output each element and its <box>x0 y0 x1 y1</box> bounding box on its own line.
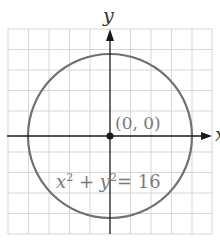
eq-value: 16 <box>138 171 161 192</box>
y-axis-arrow-icon <box>106 29 114 41</box>
x-axis-arrow-icon <box>201 132 212 140</box>
origin-label: (0, 0) <box>115 113 161 133</box>
x-axis-label: x <box>215 123 220 145</box>
eq-exp1: 2 <box>66 171 73 184</box>
equation-label: x2 + y2= 16 <box>56 171 161 192</box>
eq-exp2: 2 <box>110 171 117 184</box>
circle-graph <box>0 0 220 249</box>
eq-y: y <box>100 171 110 192</box>
y-axis-label: y <box>103 4 114 26</box>
eq-equals: = <box>117 171 132 192</box>
origin-point <box>107 133 114 140</box>
eq-plus: + <box>79 171 94 192</box>
axes <box>7 40 206 234</box>
eq-x: x <box>56 171 66 192</box>
